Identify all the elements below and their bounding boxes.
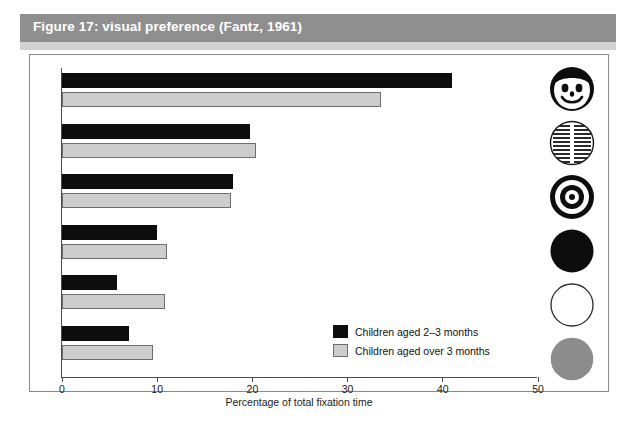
x-tick-mark bbox=[157, 377, 158, 382]
x-tick-mark bbox=[62, 377, 63, 382]
x-tick-label: 0 bbox=[59, 383, 65, 395]
legend-label-dark: Children aged 2–3 months bbox=[355, 326, 478, 338]
figure-title: Figure 17: visual preference (Fantz, 196… bbox=[33, 19, 302, 34]
plot-area: 01020304050 Percentage of total fixation… bbox=[30, 55, 610, 393]
legend-swatch-light-icon bbox=[333, 344, 348, 357]
legend-item-dark: Children aged 2–3 months bbox=[333, 323, 490, 340]
x-tick-label: 40 bbox=[437, 383, 449, 395]
legend-swatch-dark-icon bbox=[333, 325, 348, 338]
x-axis-title: Percentage of total fixation time bbox=[61, 396, 537, 408]
bar-printed-matter-series-0 bbox=[62, 124, 250, 139]
bar-printed-matter-series-1 bbox=[62, 143, 256, 158]
white-circle-icon bbox=[548, 281, 596, 329]
bullseye-icon-svg bbox=[548, 173, 596, 221]
x-tick-mark bbox=[442, 377, 443, 382]
bar-plain-grey-disc-series-0 bbox=[62, 326, 129, 341]
bar-bullseye-series-0 bbox=[62, 174, 233, 189]
chart-panel: 01020304050 Percentage of total fixation… bbox=[29, 54, 609, 392]
bar-plain-black-disc-series-0 bbox=[62, 225, 157, 240]
grey-circle-icon-svg bbox=[548, 335, 596, 383]
x-tick-label: 20 bbox=[247, 383, 259, 395]
stimulus-icon-column bbox=[542, 63, 606, 383]
newsprint-icon-svg bbox=[548, 119, 596, 167]
bar-face-series-1 bbox=[62, 92, 381, 107]
x-tick-mark bbox=[252, 377, 253, 382]
black-circle-icon bbox=[548, 227, 596, 275]
bar-plain-grey-disc-series-1 bbox=[62, 345, 153, 360]
x-tick-label: 10 bbox=[151, 383, 163, 395]
figure-container: Figure 17: visual preference (Fantz, 196… bbox=[20, 14, 616, 394]
figure-screenshot: Figure 17: visual preference (Fantz, 196… bbox=[0, 0, 629, 428]
x-tick-mark bbox=[538, 377, 539, 382]
x-axis-line bbox=[61, 377, 537, 378]
white-circle-icon-svg bbox=[548, 281, 596, 329]
figure-title-bar: Figure 17: visual preference (Fantz, 196… bbox=[20, 14, 616, 42]
newsprint-icon bbox=[548, 119, 596, 167]
black-circle-icon-svg bbox=[548, 227, 596, 275]
x-tick-label: 30 bbox=[342, 383, 354, 395]
face-icon-svg bbox=[548, 65, 596, 113]
bar-plain-white-disc-series-1 bbox=[62, 294, 165, 309]
legend-label-light: Children aged over 3 months bbox=[355, 345, 490, 357]
grey-circle-icon bbox=[548, 335, 596, 383]
bar-plain-white-disc-series-0 bbox=[62, 275, 117, 290]
chart-legend: Children aged 2–3 months Children aged o… bbox=[333, 323, 490, 361]
bar-plain-black-disc-series-1 bbox=[62, 244, 167, 259]
legend-item-light: Children aged over 3 months bbox=[333, 342, 490, 359]
x-tick-mark bbox=[347, 377, 348, 382]
bar-bullseye-series-1 bbox=[62, 193, 231, 208]
bar-face-series-0 bbox=[62, 73, 452, 88]
title-underband bbox=[20, 42, 616, 50]
face-icon bbox=[548, 65, 596, 113]
x-tick-label: 50 bbox=[532, 383, 544, 395]
bullseye-icon bbox=[548, 173, 596, 221]
